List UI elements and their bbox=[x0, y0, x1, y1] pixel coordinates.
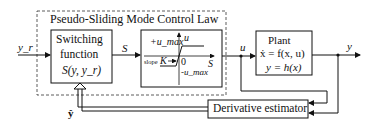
axis-u-label: u bbox=[184, 33, 189, 43]
pseudo-sliding-mode-control-diagram: Pseudo-Sliding Mode Control Law Switchin… bbox=[0, 0, 376, 128]
axis-s-label: S bbox=[208, 59, 213, 69]
controller-title: Pseudo-Sliding Mode Control Law bbox=[50, 13, 218, 25]
origin-label: 0 bbox=[181, 57, 186, 67]
signal-u: u bbox=[240, 42, 246, 53]
plant-state-equation: ẋ = f(x, u) bbox=[260, 48, 305, 59]
slope-symbol: K bbox=[160, 56, 167, 66]
switching-formula: S(y, y_r) bbox=[62, 65, 101, 77]
slope-label: slope bbox=[144, 59, 158, 66]
switching-label-line1: Switching bbox=[56, 34, 103, 46]
signal-s: S bbox=[122, 43, 128, 54]
estimator-label: Derivative estimator bbox=[213, 103, 307, 115]
signal-y: y bbox=[347, 41, 352, 52]
switching-label-line2: function bbox=[60, 49, 98, 61]
plant-title: Plant bbox=[268, 35, 291, 46]
plant-output-equation: y = h(x) bbox=[266, 62, 302, 73]
upper-limit-label: +u_max bbox=[150, 37, 183, 47]
signal-yhat: ŷ bbox=[68, 108, 74, 119]
signal-yr: y_r bbox=[18, 42, 33, 53]
lower-limit-label: -u_max bbox=[181, 68, 208, 77]
